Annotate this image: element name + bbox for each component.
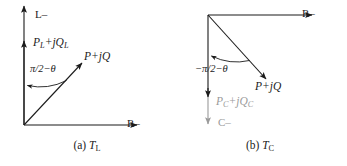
vector-label-p-b: P (216, 95, 223, 107)
vector-label-q-sub-b: C (248, 100, 254, 109)
vector-label-complex-power-a: P+jQ (84, 51, 110, 63)
axis-label-real-b: R– (302, 8, 315, 19)
vector-label-q2-b: Q (273, 80, 281, 92)
phasor-diagram-capacitive: R– C– −π/2−θ P+jQ PC+jQC (b) TC (173, 0, 347, 166)
vector-label-capacitive-power: PC+jQC (216, 96, 253, 110)
vector-label-q-a: Q (56, 36, 64, 48)
vector-label-op-b: +j (229, 95, 240, 107)
vector-label-op2-a: +j (91, 50, 102, 62)
caption-subscript-a: L (95, 144, 100, 153)
caption-prefix-b: (b) (246, 139, 259, 151)
vector-label-p2-a: P (84, 50, 91, 62)
angle-arc-b (212, 56, 250, 62)
vector-label-q-b: Q (240, 95, 248, 107)
axis-label-inductive: L– (35, 9, 47, 20)
figure-canvas: L– R– PL+jQL P+jQ π/2−θ (a) TL (0, 0, 347, 166)
vector-label-inductive-power: PL+jQL (33, 37, 69, 51)
angle-label-a: π/2−θ (30, 64, 56, 75)
vector-label-op2-b: +j (262, 80, 273, 92)
vector-label-q-sub-a: L (64, 41, 69, 50)
caption-panel-a: (a) TL (0, 140, 174, 154)
vector-label-p-a: P (33, 36, 40, 48)
caption-prefix-a: (a) (73, 139, 86, 151)
axis-label-capacitive: C– (218, 117, 231, 128)
vector-label-complex-power-b: P+jQ (255, 81, 281, 93)
caption-subscript-b: C (269, 144, 275, 153)
phasor-diagram-inductive: L– R– PL+jQL P+jQ π/2−θ (a) TL (0, 0, 174, 166)
vector-label-p2-b: P (255, 80, 262, 92)
vector-label-q2-a: Q (102, 50, 110, 62)
caption-panel-b: (b) TC (173, 140, 347, 154)
vector-label-op-a: +j (45, 36, 56, 48)
angle-label-b: −π/2−θ (195, 64, 228, 75)
axis-label-real-a: R– (127, 118, 140, 129)
